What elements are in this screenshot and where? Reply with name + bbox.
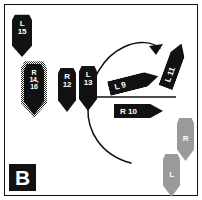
marker-label-line: R <box>32 69 37 76</box>
panel-letter-badge: B <box>9 164 36 191</box>
arrow-label: R 10 <box>114 107 137 116</box>
marker-label-line: 13 <box>84 79 93 87</box>
marker-label-line: 16 <box>30 83 37 90</box>
marker-label-line: 12 <box>63 81 72 89</box>
marker-label-line: 14, <box>29 76 38 83</box>
marker-label-line: 15 <box>18 28 27 36</box>
arrow-label: L 9 <box>108 80 127 93</box>
marker-label-line: L <box>169 171 174 179</box>
sweep-arc <box>88 43 160 163</box>
arc-arrowhead-icon <box>149 44 163 55</box>
figure-panel: L15R14,16R12L13RL L 9L 11R 10 B <box>0 0 202 200</box>
marker-label-line: R <box>183 135 189 143</box>
